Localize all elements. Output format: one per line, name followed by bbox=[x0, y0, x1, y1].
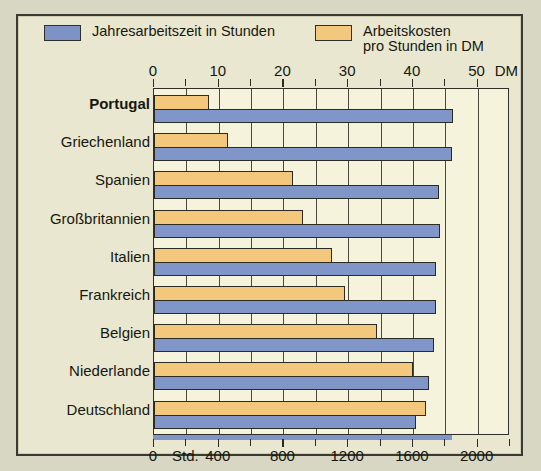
chart-frame: Jahresarbeitszeit in Stunden Arbeitskost… bbox=[16, 14, 523, 456]
bar-hours bbox=[154, 338, 434, 352]
axis-tick-mark bbox=[185, 79, 186, 86]
axis-top-tick-label: 10 bbox=[209, 62, 226, 79]
legend-label-cost-line1: Arbeitskosten bbox=[363, 23, 451, 39]
axis-top-tick-label: 0 bbox=[149, 62, 157, 79]
category-label-frankreich: Frankreich bbox=[79, 286, 150, 303]
bar-cost bbox=[154, 248, 332, 263]
bar-cost bbox=[154, 362, 413, 377]
legend-label-cost-line2: pro Stunden in DM bbox=[363, 39, 484, 54]
axis-bottom-ticks bbox=[18, 439, 521, 447]
axis-tick-mark bbox=[153, 79, 154, 87]
category-label-grobritannien: Großbritannien bbox=[50, 210, 150, 227]
axis-tick-mark bbox=[509, 439, 510, 446]
axis-top-ticks bbox=[18, 79, 521, 87]
bar-hours bbox=[154, 300, 436, 314]
axis-tick-mark bbox=[250, 79, 251, 86]
legend-swatch-hours-icon bbox=[44, 25, 81, 41]
bar-hours bbox=[154, 185, 439, 199]
axis-tick-mark bbox=[380, 79, 381, 86]
bar-hours bbox=[154, 224, 440, 238]
bar-hours bbox=[154, 109, 453, 123]
axis-top-tick-label: 40 bbox=[404, 62, 421, 79]
axis-tick-mark bbox=[380, 439, 381, 446]
axis-tick-mark bbox=[282, 439, 283, 447]
axis-bottom-tick-label: 1600 bbox=[395, 447, 428, 464]
bar-cost bbox=[154, 210, 303, 225]
axis-tick-mark bbox=[153, 439, 154, 447]
bar-cost bbox=[154, 401, 426, 416]
bar-cost bbox=[154, 133, 228, 148]
axis-bottom-tick-label: 0 bbox=[149, 447, 157, 464]
bar-hours bbox=[154, 376, 429, 390]
axis-tick-mark bbox=[250, 439, 251, 446]
category-label-deutschland: Deutschland bbox=[67, 401, 150, 418]
axis-bottom-tick-label: 800 bbox=[270, 447, 295, 464]
axis-tick-mark bbox=[218, 79, 219, 87]
category-label-spanien: Spanien bbox=[95, 171, 150, 188]
axis-bottom-tick-label: 2000 bbox=[460, 447, 493, 464]
category-label-niederlande: Niederlande bbox=[69, 362, 150, 379]
axis-tick-mark bbox=[412, 439, 413, 447]
axis-bottom-tick-label: 1200 bbox=[330, 447, 363, 464]
bar-cost bbox=[154, 324, 377, 339]
plot-area bbox=[153, 88, 509, 435]
axis-bottom: 0400800120016002000Std. bbox=[18, 439, 521, 463]
axis-tick-mark bbox=[218, 439, 219, 447]
axis-tick-mark bbox=[412, 79, 413, 87]
bar-hours bbox=[154, 415, 416, 429]
category-label-griechenland: Griechenland bbox=[61, 133, 150, 150]
legend-swatch-cost-icon bbox=[315, 25, 352, 41]
bar-cost bbox=[154, 95, 209, 110]
category-label-portugal: Portugal bbox=[89, 95, 150, 112]
bar-hours bbox=[154, 262, 436, 276]
axis-tick-mark bbox=[347, 79, 348, 87]
axis-bottom-unit-label: Std. bbox=[172, 447, 199, 464]
bar-group bbox=[154, 89, 508, 434]
axis-tick-mark bbox=[477, 439, 478, 447]
axis-top-unit-label: DM bbox=[495, 62, 518, 79]
bar-cost bbox=[154, 286, 345, 301]
axis-tick-mark bbox=[315, 439, 316, 446]
bar-hours bbox=[154, 147, 452, 161]
legend-item-cost: Arbeitskosten pro Stunden in DM bbox=[315, 24, 484, 54]
legend-label-cost: Arbeitskosten pro Stunden in DM bbox=[363, 24, 484, 54]
axis-tick-mark bbox=[477, 79, 478, 87]
axis-tick-mark bbox=[315, 79, 316, 86]
axis-top-tick-label: 30 bbox=[339, 62, 356, 79]
chart-legend: Jahresarbeitszeit in Stunden Arbeitskost… bbox=[18, 16, 521, 62]
chart-figure: Jahresarbeitszeit in Stunden Arbeitskost… bbox=[0, 0, 541, 471]
axis-top: 01020304050DM bbox=[18, 62, 521, 84]
axis-tick-mark bbox=[185, 439, 186, 446]
category-label-italien: Italien bbox=[110, 248, 150, 265]
legend-label-hours: Jahresarbeitszeit in Stunden bbox=[92, 24, 275, 39]
bar-cost bbox=[154, 171, 293, 186]
axis-tick-mark bbox=[347, 439, 348, 447]
axis-top-tick-label: 20 bbox=[274, 62, 291, 79]
category-labels: PortugalGriechenlandSpanienGroßbritannie… bbox=[32, 88, 150, 435]
axis-bottom-tick-label: 400 bbox=[205, 447, 230, 464]
legend-item-hours: Jahresarbeitszeit in Stunden bbox=[44, 24, 275, 41]
axis-tick-mark bbox=[444, 439, 445, 446]
axis-tick-mark bbox=[444, 79, 445, 86]
axis-top-tick-label: 50 bbox=[468, 62, 485, 79]
category-label-belgien: Belgien bbox=[100, 324, 150, 341]
axis-tick-mark bbox=[282, 79, 283, 87]
